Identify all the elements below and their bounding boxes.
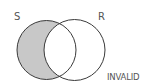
set-label-s: S [14,12,20,22]
set-label-r: R [98,12,105,22]
verdict-label: INVALID [107,73,139,82]
